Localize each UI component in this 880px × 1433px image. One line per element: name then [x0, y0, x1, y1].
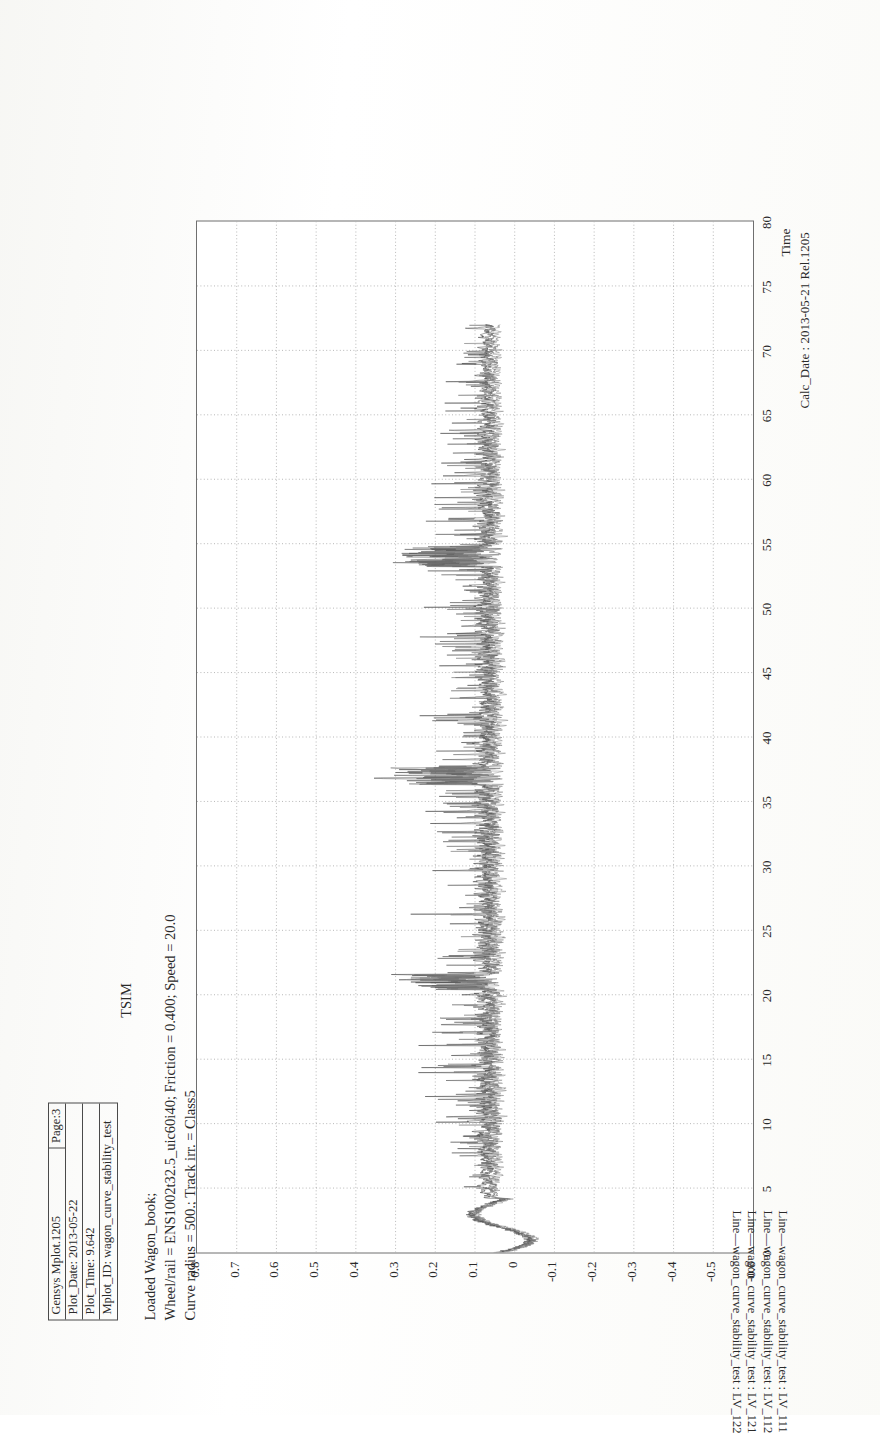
y-tick-label: 0.1	[465, 1261, 481, 1303]
x-tick-label: 10	[759, 1104, 775, 1144]
y-tick-label: 0.2	[425, 1261, 441, 1303]
info-row: Gensys Mplot.1205 Page:3	[49, 1103, 66, 1319]
legend: Line—wagon_curve_stability_test : LV_111…	[729, 1210, 790, 1433]
y-tick-label: 0.7	[227, 1261, 243, 1303]
x-tick-label: 20	[759, 975, 775, 1015]
x-axis-title: Time	[778, 228, 794, 256]
x-tick-label: 30	[759, 846, 775, 886]
info-row: Plot_Date: 2013-05-22	[66, 1103, 83, 1319]
y-tick-label: 0.8	[187, 1261, 203, 1303]
x-tick-label: 40	[759, 718, 775, 758]
y-tick-label: 0.6	[266, 1261, 282, 1303]
info-mplot-id: Mplot_ID: wagon_curve_stability_test	[100, 1115, 116, 1319]
y-tick-label: -0.2	[584, 1261, 600, 1303]
x-tick-label: 50	[759, 589, 775, 629]
info-mplot-version: Gensys Mplot.1205	[49, 1210, 65, 1319]
x-tick-label: 55	[759, 524, 775, 564]
x-tick-label: 80	[759, 202, 775, 242]
legend-item: Line—wagon_curve_stability_test : LV_111	[775, 1210, 790, 1433]
y-tick-label: 0	[505, 1261, 521, 1303]
y-tick-label: 0.3	[386, 1261, 402, 1303]
y-tick-label: -0.3	[624, 1261, 640, 1303]
info-page-number: Page:3	[49, 1103, 65, 1148]
info-row: Plot_Time: 9.642	[83, 1103, 100, 1319]
legend-item: Line—wagon_curve_stability_test : LV_122	[729, 1210, 744, 1433]
y-tick-label: 0.5	[306, 1261, 322, 1303]
chart-title: TSIM	[118, 680, 135, 1320]
chart-subtitle-line2: Wheel/rail = ENS1002t32.5_uic60i40; Fric…	[160, 914, 181, 1320]
legend-item: Line—wagon_curve_stability_test : LV_121	[744, 1210, 759, 1433]
legend-item: Line—wagon_curve_stability_test : LV_112	[760, 1210, 775, 1433]
y-tick-label: -0.1	[544, 1261, 560, 1303]
x-tick-label: 70	[759, 331, 775, 371]
y-tick-label: 0.4	[346, 1261, 362, 1303]
y-tick-label: -0.4	[664, 1261, 680, 1303]
x-tick-label: 75	[759, 266, 775, 306]
calc-date-label: Calc_Date : 2013-05-21 Rel.1205	[797, 232, 813, 408]
info-plot-time: Plot_Time: 9.642	[83, 1222, 99, 1319]
plot-canvas	[196, 220, 754, 1253]
x-tick-label: 45	[759, 653, 775, 693]
info-spacer	[49, 1148, 65, 1210]
y-tick-label: -0.5	[703, 1261, 719, 1303]
x-tick-label: 5	[759, 1169, 775, 1209]
x-tick-label: 25	[759, 911, 775, 951]
x-tick-label: 35	[759, 782, 775, 822]
chart-subtitle-line1: Loaded Wagon_book;	[140, 1192, 161, 1320]
plot-svg	[197, 221, 753, 1252]
x-tick-label: 60	[759, 460, 775, 500]
data-traces	[374, 324, 539, 1252]
x-tick-label: 65	[759, 395, 775, 435]
plot-info-box: Gensys Mplot.1205 Page:3 Plot_Date: 2013…	[48, 1102, 118, 1320]
info-plot-date: Plot_Date: 2013-05-22	[66, 1194, 82, 1319]
info-row: Mplot_ID: wagon_curve_stability_test	[100, 1103, 116, 1319]
x-tick-label: 15	[759, 1040, 775, 1080]
